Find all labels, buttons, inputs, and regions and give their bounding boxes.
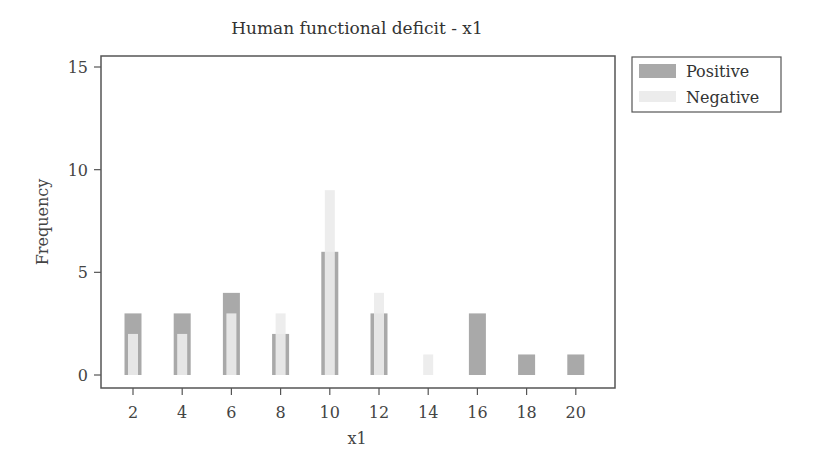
y-axis: 051015	[68, 58, 101, 385]
bar-negative-6	[226, 313, 236, 375]
bar-positive-16	[469, 313, 486, 375]
x-tick-label: 16	[467, 403, 487, 422]
x-tick-label: 2	[128, 403, 138, 422]
x-tick-label: 12	[369, 403, 389, 422]
legend-swatch-positive	[639, 64, 676, 78]
bar-negative-14	[423, 354, 433, 375]
bar-negative-10	[325, 190, 335, 375]
x-tick-label: 4	[177, 403, 187, 422]
x-axis: 2468101214161820	[128, 388, 586, 422]
x-tick-label: 20	[566, 403, 586, 422]
y-axis-label: Frequency	[33, 179, 52, 266]
bar-negative-12	[374, 293, 384, 375]
y-tick-label: 10	[68, 161, 88, 180]
bar-positive-20	[567, 354, 584, 375]
bar-positive-18	[518, 354, 535, 375]
x-tick-label: 10	[320, 403, 340, 422]
bar-negative-4	[177, 334, 187, 375]
histogram-chart: Human functional deficit - x1 051015 246…	[0, 0, 817, 468]
legend-label-negative: Negative	[686, 88, 759, 107]
bar-negative-2	[128, 334, 138, 375]
chart-title: Human functional deficit - x1	[231, 18, 483, 38]
y-tick-label: 0	[78, 366, 88, 385]
x-axis-label: x1	[347, 429, 366, 448]
legend-swatch-negative	[639, 91, 676, 102]
x-tick-label: 18	[516, 403, 536, 422]
x-tick-label: 14	[418, 403, 438, 422]
y-tick-label: 5	[78, 263, 88, 282]
legend: Positive Negative	[632, 57, 781, 112]
x-tick-label: 6	[226, 403, 236, 422]
bar-negative-8	[276, 313, 286, 375]
plot-area	[101, 56, 615, 388]
legend-label-positive: Positive	[686, 62, 749, 81]
x-tick-label: 8	[276, 403, 286, 422]
y-tick-label: 15	[68, 58, 88, 77]
